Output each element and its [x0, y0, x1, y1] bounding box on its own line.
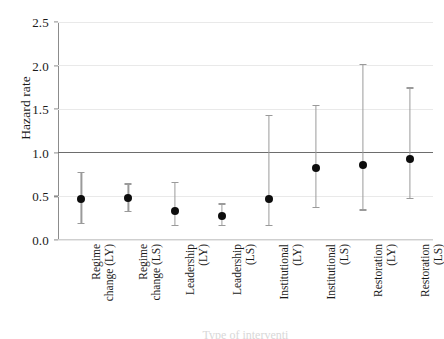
x-tick-label-line: Regime: [90, 244, 103, 336]
y-axis-tick-labels: 0.00.51.01.52.02.5: [5, 0, 49, 339]
error-bar: [409, 87, 410, 198]
x-tick-label-line: (LY): [384, 244, 397, 336]
x-tick-label: Institutional(LS): [325, 244, 350, 336]
x-tick-label-line: Leadership: [231, 244, 244, 336]
y-axis-line: [58, 22, 59, 240]
error-bar-cap-upper: [78, 172, 85, 173]
x-tick-label: Restoration(LY): [372, 244, 397, 336]
plot-area: [58, 22, 433, 240]
error-bar-cap-lower: [406, 198, 413, 199]
gridline: [58, 240, 433, 241]
data-point: [265, 195, 273, 203]
y-tick-mark: [54, 109, 58, 110]
y-tick-mark: [54, 21, 58, 22]
x-tick-label-line: (LY): [291, 244, 304, 336]
x-tick-label-line: Restoration: [372, 244, 385, 336]
x-tick-label-line: Regime: [137, 244, 150, 336]
x-tick-label: Institutional(LY): [278, 244, 303, 336]
error-bar-cap-lower: [78, 223, 85, 224]
x-tick-label-line: Institutional: [278, 244, 291, 336]
gridline: [58, 196, 433, 197]
y-tick-mark: [54, 65, 58, 66]
x-tick-label: Leadership(LY): [184, 244, 209, 336]
error-bar: [268, 115, 269, 225]
x-tick-label: Restoration(LS): [419, 244, 444, 336]
x-tick-label-line: (LS): [431, 244, 444, 336]
y-tick-label: 0.0: [5, 234, 49, 247]
error-bar-cap-upper: [406, 87, 413, 88]
y-tick-label: 2.0: [5, 59, 49, 72]
error-bar-cap-lower: [125, 211, 132, 212]
error-bar-cap-lower: [219, 225, 226, 226]
gridline: [58, 65, 433, 66]
error-bar-cap-lower: [265, 225, 272, 226]
x-axis-tick-labels: Regimechange (LY)Regimechange (LS)Leader…: [58, 244, 433, 339]
data-point: [77, 195, 85, 203]
data-point: [406, 155, 414, 163]
y-tick-label: 1.0: [5, 146, 49, 159]
x-tick-label-line: change (LY): [103, 244, 116, 336]
error-bar: [315, 105, 316, 207]
x-tick-label-line: (LS): [244, 244, 257, 336]
error-bar-cap-upper: [219, 203, 226, 204]
x-axis-title: Type of interventi: [58, 328, 433, 339]
reference-line: [58, 152, 433, 153]
y-tick-label: 0.5: [5, 190, 49, 203]
x-tick-label: Leadership(LS): [231, 244, 256, 336]
y-tick-mark: [54, 239, 58, 240]
x-tick-label: Regimechange (LY): [90, 244, 115, 336]
error-bar-cap-lower: [172, 225, 179, 226]
data-point: [359, 161, 367, 169]
error-bar-cap-upper: [359, 64, 366, 65]
data-point: [218, 212, 226, 220]
x-tick-label-line: Leadership: [184, 244, 197, 336]
error-bar-cap-upper: [312, 105, 319, 106]
gridline: [58, 109, 433, 110]
x-tick-label: Regimechange (LS): [137, 244, 162, 336]
error-bar-cap-lower: [312, 207, 319, 208]
data-point: [312, 164, 320, 172]
y-tick-label: 1.5: [5, 103, 49, 116]
y-tick-mark: [54, 152, 58, 153]
error-bar: [175, 182, 176, 226]
error-bar-cap-upper: [172, 182, 179, 183]
error-bar-cap-upper: [125, 183, 132, 184]
error-bar-cap-upper: [265, 115, 272, 116]
error-bar-cap-lower: [359, 209, 366, 210]
gridline: [58, 22, 433, 23]
x-tick-label-line: Restoration: [419, 244, 432, 336]
x-tick-label-line: (LS): [337, 244, 350, 336]
x-tick-label-line: change (LS): [150, 244, 163, 336]
x-tick-label-line: (LY): [197, 244, 210, 336]
y-tick-label: 2.5: [5, 16, 49, 29]
data-point: [171, 207, 179, 215]
data-point: [124, 194, 132, 202]
error-bar: [362, 64, 363, 210]
y-tick-mark: [54, 196, 58, 197]
x-tick-label-line: Institutional: [325, 244, 338, 336]
